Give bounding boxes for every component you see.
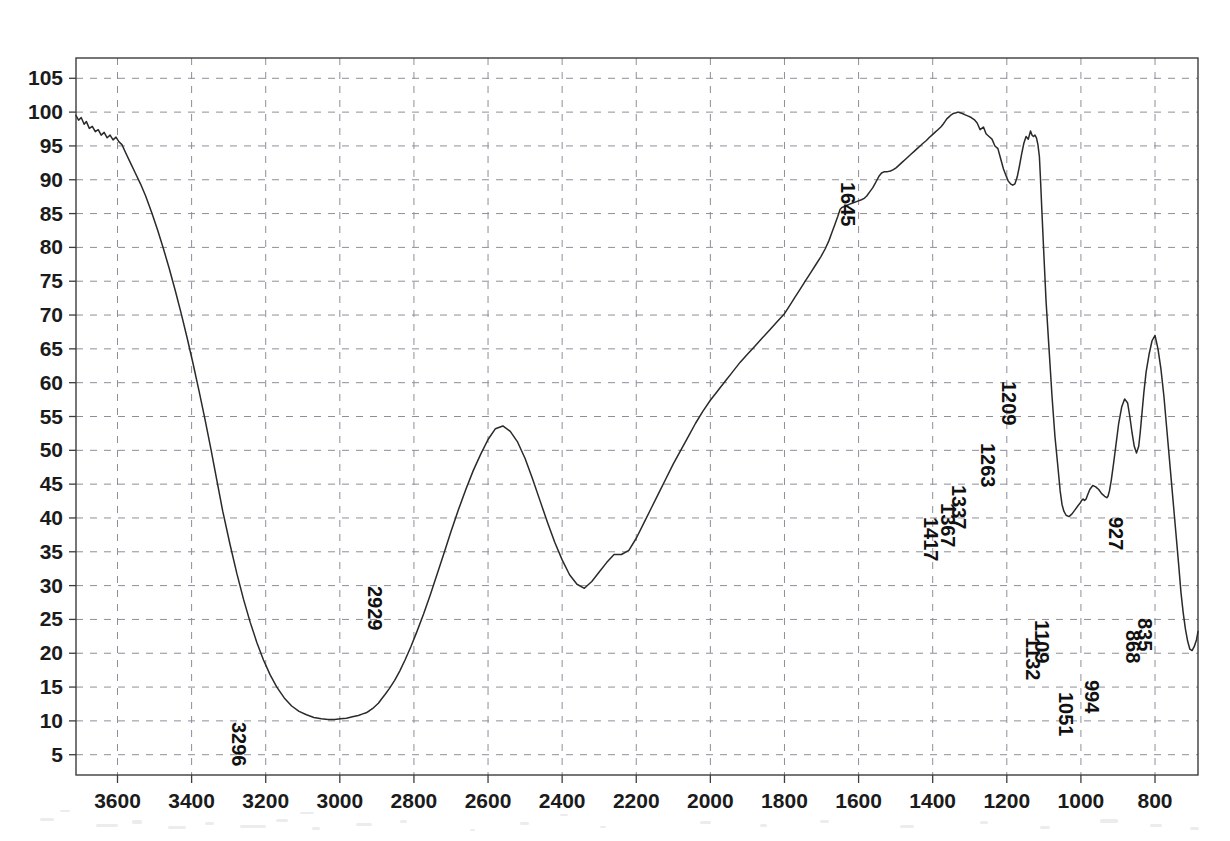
ytick-label-20: 20 — [40, 641, 63, 664]
xtick-label-2600: 2600 — [465, 789, 512, 812]
ytick-label-70: 70 — [40, 303, 63, 326]
ytick-label-65: 65 — [40, 337, 64, 360]
scan-speckle-23 — [300, 812, 314, 814]
scan-speckle-7 — [312, 827, 320, 830]
xtick-label-2800: 2800 — [391, 789, 438, 812]
scan-speckle-24 — [560, 814, 568, 816]
peak-label-1263: 1263 — [977, 443, 999, 488]
peak-label-927: 927 — [1105, 517, 1127, 550]
scan-speckle-17 — [980, 821, 988, 824]
chart-background — [0, 0, 1230, 841]
ytick-label-10: 10 — [40, 709, 63, 732]
ytick-label-35: 35 — [40, 540, 64, 563]
ytick-label-80: 80 — [40, 235, 63, 258]
scan-speckle-15 — [820, 820, 829, 823]
x-axis-tick-labels: 3600340032003000280026002400220020001800… — [94, 789, 1172, 812]
ytick-label-15: 15 — [40, 675, 64, 698]
xtick-label-1600: 1600 — [835, 789, 882, 812]
scan-speckle-14 — [760, 824, 767, 827]
spectrum-plot-svg: 5101520253035404550556065707580859095100… — [0, 0, 1230, 841]
scan-speckle-4 — [205, 822, 214, 825]
peak-label-1337: 1337 — [948, 485, 970, 530]
xtick-label-2400: 2400 — [539, 789, 586, 812]
ytick-label-45: 45 — [40, 472, 64, 495]
ytick-label-95: 95 — [40, 134, 64, 157]
peak-label-1109: 1109 — [1031, 620, 1053, 663]
ytick-label-105: 105 — [28, 66, 63, 89]
y-axis-tickmarks — [69, 78, 76, 754]
xtick-label-1800: 1800 — [761, 789, 808, 812]
scan-speckle-10 — [470, 829, 475, 831]
ytick-label-85: 85 — [40, 202, 64, 225]
ytick-label-40: 40 — [40, 506, 63, 529]
scan-speckle-22 — [60, 810, 70, 812]
scan-speckle-21 — [1190, 827, 1199, 830]
scan-speckle-13 — [700, 821, 711, 824]
ytick-label-60: 60 — [40, 371, 63, 394]
ytick-label-100: 100 — [28, 100, 63, 123]
scan-speckle-19 — [1100, 819, 1118, 823]
scan-speckle-0 — [40, 818, 54, 821]
xtick-label-800: 800 — [1137, 789, 1172, 812]
peak-label-835: 835 — [1134, 618, 1156, 651]
peak-label-3296: 3296 — [228, 722, 250, 767]
peak-label-2929: 2929 — [364, 586, 386, 631]
xtick-label-1000: 1000 — [1058, 789, 1105, 812]
ytick-label-30: 30 — [40, 574, 63, 597]
xtick-label-3400: 3400 — [168, 789, 215, 812]
peak-label-1051: 1051 — [1055, 692, 1077, 737]
xtick-label-1200: 1200 — [983, 789, 1030, 812]
peak-label-1209: 1209 — [998, 381, 1020, 426]
xtick-label-3000: 3000 — [316, 789, 363, 812]
ytick-label-90: 90 — [40, 168, 63, 191]
ytick-label-55: 55 — [40, 405, 64, 428]
peak-label-994: 994 — [1081, 680, 1103, 714]
ftir-spectrum-chart: 5101520253035404550556065707580859095100… — [0, 0, 1230, 841]
xtick-label-3600: 3600 — [94, 789, 141, 812]
scan-speckle-2 — [132, 820, 142, 824]
scan-speckle-20 — [1150, 824, 1162, 827]
scan-speckle-9 — [400, 820, 407, 823]
xtick-label-3200: 3200 — [242, 789, 289, 812]
scan-speckle-11 — [520, 822, 529, 825]
ytick-label-50: 50 — [40, 438, 63, 461]
scan-speckle-18 — [1040, 826, 1050, 829]
scan-speckle-1 — [96, 824, 118, 827]
ytick-label-75: 75 — [40, 269, 64, 292]
scan-speckle-6 — [276, 819, 288, 822]
peak-label-1645: 1645 — [837, 182, 859, 227]
scan-speckle-3 — [168, 826, 186, 829]
ytick-label-25: 25 — [40, 607, 64, 630]
scan-speckle-8 — [356, 823, 372, 826]
scan-speckle-5 — [240, 825, 266, 828]
scan-speckle-16 — [900, 825, 914, 828]
xtick-label-1400: 1400 — [909, 789, 956, 812]
scan-speckle-12 — [600, 826, 606, 828]
xtick-label-2000: 2000 — [687, 789, 734, 812]
xtick-label-2200: 2200 — [613, 789, 660, 812]
ytick-label-5: 5 — [51, 743, 63, 766]
